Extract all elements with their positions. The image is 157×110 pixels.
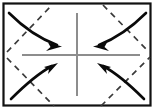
convergent-flow-diagram (0, 0, 157, 110)
diagram-root (0, 0, 157, 110)
